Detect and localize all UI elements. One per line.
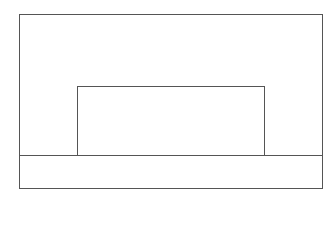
inner-rectangle: [77, 86, 265, 156]
